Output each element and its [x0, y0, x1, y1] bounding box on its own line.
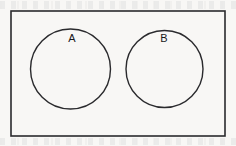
set-label-b: B	[160, 32, 167, 44]
venn-diagram-canvas: A B	[0, 0, 236, 146]
set-label-a: A	[68, 32, 76, 44]
venn-diagram-figure: A B	[0, 0, 236, 146]
universal-set-rectangle	[11, 11, 225, 136]
